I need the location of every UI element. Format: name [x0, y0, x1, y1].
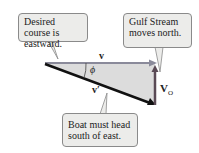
- callout-text: Gulf Stream moves north.: [129, 16, 181, 38]
- callout-text: Boat must head south of east.: [68, 119, 130, 141]
- label-vo: VO: [160, 82, 173, 97]
- label-phi: ϕ: [90, 64, 95, 75]
- callout-gulf-stream: Gulf Stream moves north.: [123, 13, 192, 48]
- callout-desired-course: Desired course is eastward.: [18, 13, 88, 42]
- label-v: v: [99, 50, 104, 61]
- callout-boat-heading: Boat must head south of east.: [62, 113, 138, 147]
- label-v-prime: v′: [92, 84, 100, 95]
- label-vo-main: V: [160, 82, 168, 94]
- callout-text: Desired course is eastward.: [24, 16, 62, 49]
- label-vo-sub: O: [168, 89, 173, 97]
